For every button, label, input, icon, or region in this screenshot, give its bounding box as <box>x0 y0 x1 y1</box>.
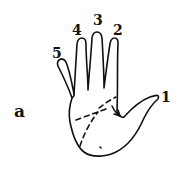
panel-label: a <box>14 103 25 120</box>
palm-crease-upper <box>99 97 116 108</box>
finger-label-thumb: 1 <box>161 90 171 104</box>
pinky-inner-edge <box>72 94 74 98</box>
wrist-mark <box>100 147 101 148</box>
finger-label-pinky: 5 <box>52 46 62 60</box>
finger-label-middle: 3 <box>93 13 103 27</box>
palm-crease-middle <box>76 108 108 120</box>
palm-crease-lower <box>80 112 98 146</box>
hand-outline <box>58 32 159 156</box>
finger-label-ring: 4 <box>72 23 82 37</box>
finger-label-index: 2 <box>113 23 123 37</box>
